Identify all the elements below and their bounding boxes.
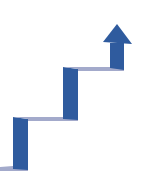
arrow-shaft [110,43,124,70]
bottom-step-riser [13,117,28,170]
middle-step-riser [63,67,78,120]
arrow-up-icon [103,24,132,44]
staircase-arrow-illustration [0,0,147,174]
